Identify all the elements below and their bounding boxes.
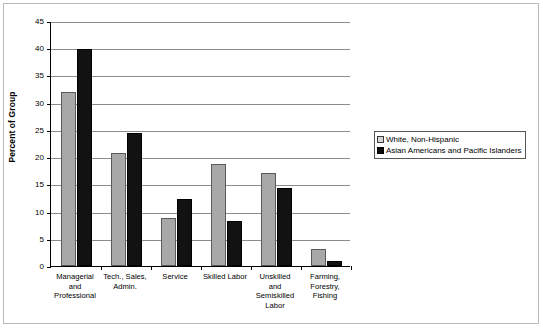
bar bbox=[311, 249, 326, 266]
x-axis-tick-labels: ManagerialandProfessionalTech., Sales,Ad… bbox=[50, 272, 350, 320]
y-tick-mark bbox=[47, 267, 51, 268]
legend-swatch-icon bbox=[377, 136, 384, 143]
x-label-line: Admin. bbox=[94, 282, 156, 292]
x-tick-mark bbox=[301, 266, 302, 270]
x-tick-mark bbox=[251, 266, 252, 270]
y-tick-label: 40 bbox=[4, 45, 44, 53]
legend-item: Asian Americans and Pacific Islanders bbox=[377, 145, 522, 156]
x-label-line: Forestry, bbox=[294, 282, 356, 292]
legend-label: Asian Americans and Pacific Islanders bbox=[386, 146, 522, 155]
x-tick-mark bbox=[351, 266, 352, 270]
y-tick-label: 15 bbox=[4, 181, 44, 189]
x-axis-category-label: Farming,Forestry,Fishing bbox=[294, 272, 356, 301]
legend-swatch-icon bbox=[377, 147, 384, 154]
chart-legend: White, Non-HispanicAsian Americans and P… bbox=[374, 131, 526, 159]
x-tick-mark bbox=[151, 266, 152, 270]
bar-group bbox=[51, 22, 351, 266]
y-axis-title: Percent of Group bbox=[7, 72, 17, 182]
legend-item: White, Non-Hispanic bbox=[377, 134, 522, 145]
chart-page: 454035302520151050 Percent of Group Mana… bbox=[0, 0, 543, 328]
y-tick-label: 45 bbox=[4, 18, 44, 26]
y-tick-label: 10 bbox=[4, 209, 44, 217]
y-tick-label: 0 bbox=[4, 263, 44, 271]
x-tick-mark bbox=[101, 266, 102, 270]
y-tick-label: 5 bbox=[4, 236, 44, 244]
x-label-line: Fishing bbox=[294, 291, 356, 301]
x-label-line: Professional bbox=[44, 291, 106, 301]
x-label-line: Labor bbox=[244, 301, 306, 311]
x-label-line: Farming, bbox=[294, 272, 356, 282]
plot-area bbox=[50, 22, 350, 267]
x-tick-mark bbox=[201, 266, 202, 270]
legend-label: White, Non-Hispanic bbox=[386, 135, 459, 144]
bar bbox=[327, 261, 342, 266]
